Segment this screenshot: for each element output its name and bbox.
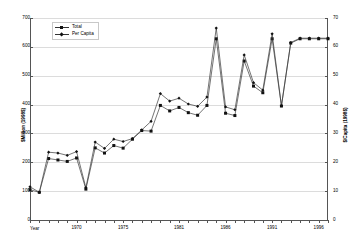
series-line-per-capita [30, 28, 328, 192]
data-point-marker-square [224, 112, 227, 115]
data-point-marker-square [150, 130, 153, 133]
data-point-marker-diamond [215, 27, 218, 30]
data-point-marker-square [168, 109, 171, 112]
data-point-marker-diamond [177, 97, 180, 100]
data-point-marker-diamond [75, 150, 78, 153]
data-point-marker-square [233, 114, 236, 117]
series-line-total [30, 39, 328, 193]
data-point-marker-square [159, 104, 162, 107]
data-point-marker-square [252, 85, 255, 88]
data-point-marker-diamond [243, 53, 246, 56]
series-layer [0, 0, 363, 250]
data-point-marker-square [66, 160, 69, 163]
data-point-marker-square [196, 114, 199, 117]
data-point-marker-diamond [187, 102, 190, 105]
data-point-marker-diamond [66, 154, 69, 157]
data-point-marker-square [29, 188, 32, 191]
data-point-marker-square [178, 106, 181, 109]
data-point-marker-diamond [271, 32, 274, 35]
data-point-marker-diamond [122, 140, 125, 143]
chart-figure: 0100200300400500600700 010203040506070 1… [0, 0, 363, 250]
data-point-marker-square [56, 158, 59, 161]
data-point-marker-square [187, 111, 190, 114]
data-point-marker-square [112, 144, 115, 147]
data-point-marker-square [205, 104, 208, 107]
data-point-marker-square [122, 147, 125, 150]
data-point-marker-diamond [56, 151, 59, 154]
data-point-marker-diamond [47, 151, 50, 154]
data-point-marker-diamond [28, 185, 31, 188]
data-point-marker-square [103, 152, 106, 155]
